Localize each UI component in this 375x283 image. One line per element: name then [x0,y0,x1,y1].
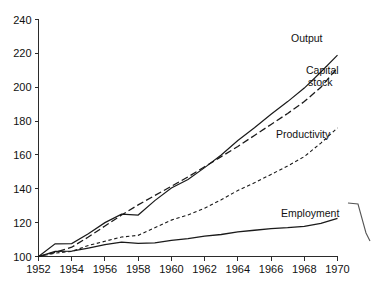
x-tick-label: 1960 [159,263,183,275]
x-tick-label: 1968 [292,263,316,275]
y-tick-label: 140 [13,183,31,195]
y-tick-label: 160 [13,149,31,161]
y-tick-label: 100 [13,251,31,263]
y-tick-label: 180 [13,115,31,127]
series-label-employment: Employment [281,207,339,219]
x-tick-label: 1958 [126,263,150,275]
series-label-capital-stock: Capital [306,64,339,76]
x-tick-label: 1962 [192,263,216,275]
x-tick-label: 1970 [325,263,349,275]
series-label-output: Output [291,32,323,44]
x-tick-label: 1966 [259,263,283,275]
y-tick-label: 240 [13,14,31,26]
x-tick-label: 1954 [59,263,83,275]
x-tick-label: 1952 [26,263,50,275]
x-tick-label: 1964 [226,263,250,275]
chart-container: 100120140160180200220240 195219541956195… [0,0,375,283]
series-label-capital-stock: stock [308,76,333,88]
y-tick-label: 220 [13,47,31,59]
y-tick-label: 200 [13,81,31,93]
y-tick-label: 120 [13,217,31,229]
line-chart: 100120140160180200220240 195219541956195… [0,0,375,283]
series-label-productivity: Productivity [276,128,331,140]
x-tick-label: 1956 [93,263,117,275]
